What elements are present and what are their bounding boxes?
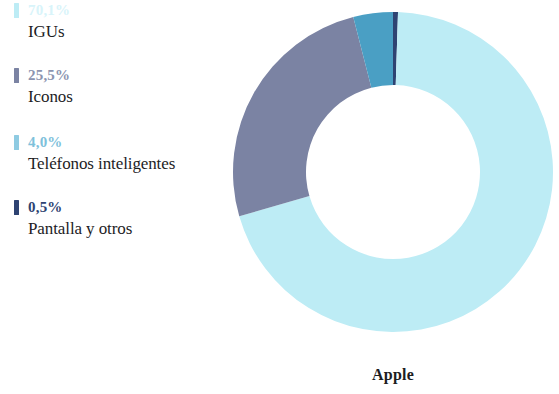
legend-percent-igus: 70,1% xyxy=(28,3,70,18)
legend-percent-iconos: 25,5% xyxy=(28,68,70,83)
legend-label-pantalla-y-otros: Pantalla y otros xyxy=(28,219,244,239)
legend-item-igus: 70,1% IGUs xyxy=(14,2,244,42)
legend-color-swatch-iconos xyxy=(14,68,19,83)
legend-label-telefonos-inteligentes: Teléfonos inteligentes xyxy=(28,154,244,174)
legend-item-header: 25,5% xyxy=(14,67,244,84)
donut-chart-svg xyxy=(231,10,555,334)
chart-caption: Apple xyxy=(231,366,555,384)
legend-color-swatch-telefonos-inteligentes xyxy=(14,135,19,150)
legend-item-header: 70,1% xyxy=(14,2,244,19)
legend-item-header: 0,5% xyxy=(14,199,244,216)
legend-item-pantalla-y-otros: 0,5% Pantalla y otros xyxy=(14,199,244,239)
legend-percent-telefonos-inteligentes: 4,0% xyxy=(28,135,63,150)
donut-chart xyxy=(231,10,555,334)
legend-item-telefonos-inteligentes: 4,0% Teléfonos inteligentes xyxy=(14,134,244,174)
legend-percent-pantalla-y-otros: 0,5% xyxy=(28,200,63,215)
legend-item-header: 4,0% xyxy=(14,134,244,151)
legend-color-swatch-pantalla-y-otros xyxy=(14,200,19,215)
legend-label-iconos: Iconos xyxy=(28,87,244,107)
donut-slice xyxy=(233,17,371,216)
legend-label-igus: IGUs xyxy=(28,22,244,42)
donut-slice-group xyxy=(233,12,553,332)
legend-color-swatch-igus xyxy=(14,3,19,18)
legend-item-iconos: 25,5% Iconos xyxy=(14,67,244,107)
